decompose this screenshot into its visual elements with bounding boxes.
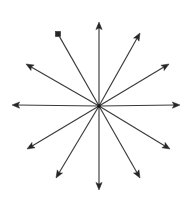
arrowhead-upper-left-steep xyxy=(55,31,60,36)
center-point xyxy=(97,104,101,108)
diagram-canvas xyxy=(0,0,192,202)
radial-arrow-diagram xyxy=(0,0,192,202)
